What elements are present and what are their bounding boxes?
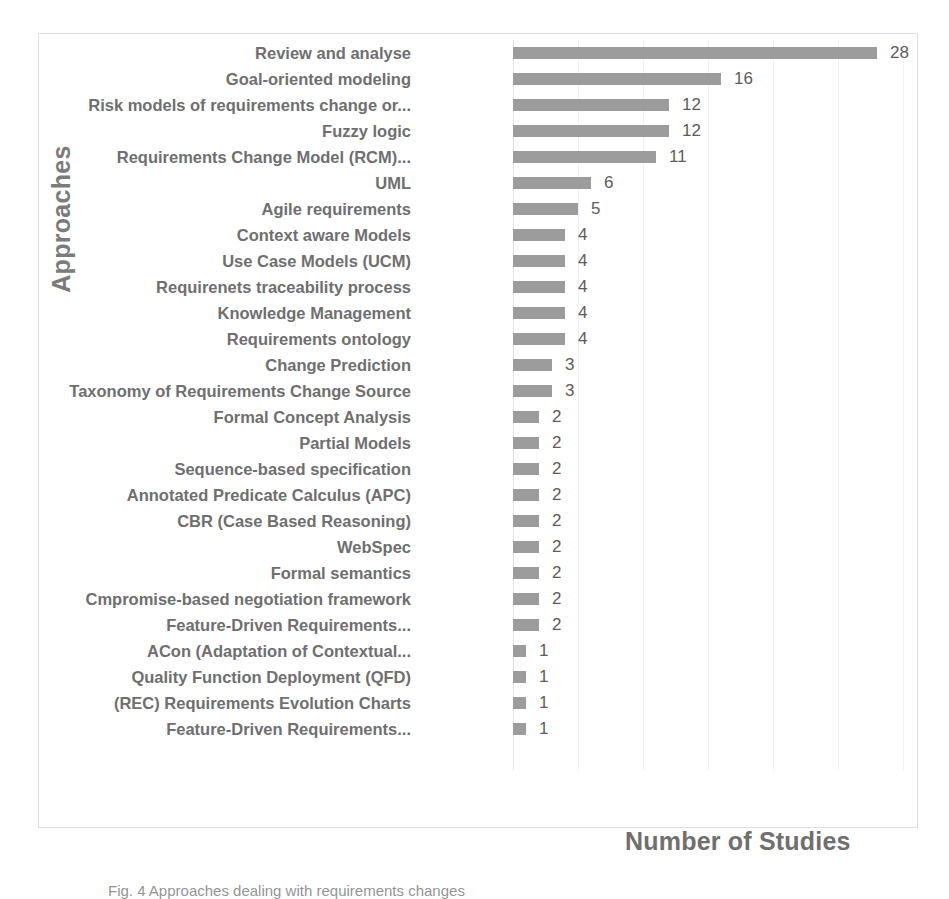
bar-row: Use Case Models (UCM)4 [39, 248, 919, 274]
bar-value-label: 16 [734, 66, 753, 92]
y-axis-title: Approaches [44, 104, 78, 334]
bar-value-label: 2 [552, 534, 561, 560]
bar[interactable] [513, 645, 526, 657]
bar-row: Goal-oriented modeling16 [39, 66, 919, 92]
bar-track: 12 [513, 118, 919, 144]
bar[interactable] [513, 177, 591, 189]
bar-track: 2 [513, 586, 919, 612]
bar-row: UML6 [39, 170, 919, 196]
bar-value-label: 1 [539, 664, 548, 690]
bar-row: Sequence-based specification2 [39, 456, 919, 482]
bar[interactable] [513, 151, 656, 163]
bar-track: 3 [513, 352, 919, 378]
bar-row: CBR (Case Based Reasoning)2 [39, 508, 919, 534]
bar[interactable] [513, 47, 877, 59]
bar-row: Partial Models2 [39, 430, 919, 456]
bar[interactable] [513, 541, 539, 553]
category-label: Feature-Driven Requirements... [166, 612, 411, 638]
bar-row: Feature-Driven Requirements...2 [39, 612, 919, 638]
bar-track: 2 [513, 430, 919, 456]
bar-track: 16 [513, 66, 919, 92]
bar-value-label: 6 [604, 170, 613, 196]
bar-track: 28 [513, 40, 919, 66]
category-label: Annotated Predicate Calculus (APC) [127, 482, 411, 508]
bar[interactable] [513, 463, 539, 475]
bar-row: Formal semantics2 [39, 560, 919, 586]
bar[interactable] [513, 73, 721, 85]
bar-value-label: 4 [578, 300, 587, 326]
bar[interactable] [513, 697, 526, 709]
bar-row: Agile requirements5 [39, 196, 919, 222]
bar[interactable] [513, 489, 539, 501]
bar[interactable] [513, 255, 565, 267]
category-label: Formal semantics [271, 560, 411, 586]
category-label: Quality Function Deployment (QFD) [131, 664, 411, 690]
bar-value-label: 4 [578, 274, 587, 300]
bar-value-label: 3 [565, 352, 574, 378]
bar[interactable] [513, 411, 539, 423]
bar-value-label: 3 [565, 378, 574, 404]
bar[interactable] [513, 125, 669, 137]
category-label: Cmpromise-based negotiation framework [86, 586, 411, 612]
category-label: Use Case Models (UCM) [222, 248, 411, 274]
bar[interactable] [513, 593, 539, 605]
category-label: Requirenets traceability process [156, 274, 411, 300]
bar-row: Fuzzy logic12 [39, 118, 919, 144]
bar-row: (REC) Requirements Evolution Charts1 [39, 690, 919, 716]
bar[interactable] [513, 203, 578, 215]
bar-row: Knowledge Management4 [39, 300, 919, 326]
bar[interactable] [513, 281, 565, 293]
category-label: Change Prediction [265, 352, 411, 378]
bar-track: 2 [513, 560, 919, 586]
x-axis-title: Number of Studies [625, 827, 851, 856]
bar-row: Requirenets traceability process4 [39, 274, 919, 300]
bar-row: Quality Function Deployment (QFD)1 [39, 664, 919, 690]
bar[interactable] [513, 333, 565, 345]
bar-track: 4 [513, 274, 919, 300]
bar-value-label: 1 [539, 690, 548, 716]
bar-value-label: 12 [682, 92, 701, 118]
category-label: UML [375, 170, 411, 196]
plot-area: Review and analyse28Goal-oriented modeli… [39, 34, 919, 829]
category-label: Requirements ontology [227, 326, 411, 352]
bar-track: 6 [513, 170, 919, 196]
bar[interactable] [513, 307, 565, 319]
bar[interactable] [513, 99, 669, 111]
category-label: Requirements Change Model (RCM)... [117, 144, 411, 170]
bar[interactable] [513, 229, 565, 241]
bar[interactable] [513, 567, 539, 579]
bar-track: 2 [513, 534, 919, 560]
chart-frame: Review and analyse28Goal-oriented modeli… [38, 33, 918, 828]
bar-value-label: 4 [578, 326, 587, 352]
bar-track: 3 [513, 378, 919, 404]
bar[interactable] [513, 619, 539, 631]
bar-track: 2 [513, 404, 919, 430]
category-label: Formal Concept Analysis [214, 404, 411, 430]
bar[interactable] [513, 437, 539, 449]
bar-row: WebSpec2 [39, 534, 919, 560]
bar[interactable] [513, 359, 552, 371]
category-label: Sequence-based specification [174, 456, 411, 482]
bar-track: 4 [513, 222, 919, 248]
bar-value-label: 2 [552, 560, 561, 586]
figure-caption: Fig. 4 Approaches dealing with requireme… [108, 882, 908, 899]
category-label: CBR (Case Based Reasoning) [177, 508, 411, 534]
category-label: WebSpec [337, 534, 411, 560]
bar-track: 2 [513, 482, 919, 508]
bar[interactable] [513, 723, 526, 735]
bar-row: Taxonomy of Requirements Change Source3 [39, 378, 919, 404]
bar[interactable] [513, 385, 552, 397]
bar-row: ACon (Adaptation of Contextual...1 [39, 638, 919, 664]
bar-track: 1 [513, 638, 919, 664]
bar-value-label: 2 [552, 586, 561, 612]
bar-row: Annotated Predicate Calculus (APC)2 [39, 482, 919, 508]
bar-value-label: 11 [669, 144, 687, 170]
bar-track: 4 [513, 300, 919, 326]
category-label: Goal-oriented modeling [226, 66, 411, 92]
bar[interactable] [513, 671, 526, 683]
bar-track: 1 [513, 664, 919, 690]
bar-row: Cmpromise-based negotiation framework2 [39, 586, 919, 612]
bar[interactable] [513, 515, 539, 527]
bar-value-label: 2 [552, 482, 561, 508]
bar-row: Change Prediction3 [39, 352, 919, 378]
